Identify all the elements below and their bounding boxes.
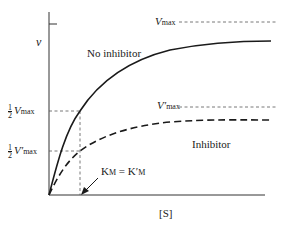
half-fraction-prime: 12 (8, 144, 12, 159)
half-fraction: 12 (8, 104, 12, 119)
inhibitor-curve (49, 120, 271, 195)
vmax-prime-main: V′ (157, 99, 166, 111)
inhibitor-label: Inhibitor (192, 139, 231, 150)
vmax-main: V (155, 15, 162, 27)
vmax-prime-sub: max (166, 102, 180, 111)
no-inhibitor-label: No inhibitor (87, 48, 141, 59)
vmax-prime-label: V′max (157, 100, 180, 111)
half-vmax-label: 12Vmax (8, 104, 35, 119)
vmax-sub: max (162, 18, 176, 27)
km-equality-label: KM = K′M (101, 166, 145, 177)
y-axis-label: v (36, 36, 41, 48)
vmax-label: Vmax (155, 16, 176, 27)
x-axis-label: [S] (159, 208, 172, 219)
no-inhibitor-curve (49, 41, 271, 195)
half-vmax-prime-label: 12V′max (8, 144, 37, 159)
michaelis-menten-plot (0, 0, 290, 229)
